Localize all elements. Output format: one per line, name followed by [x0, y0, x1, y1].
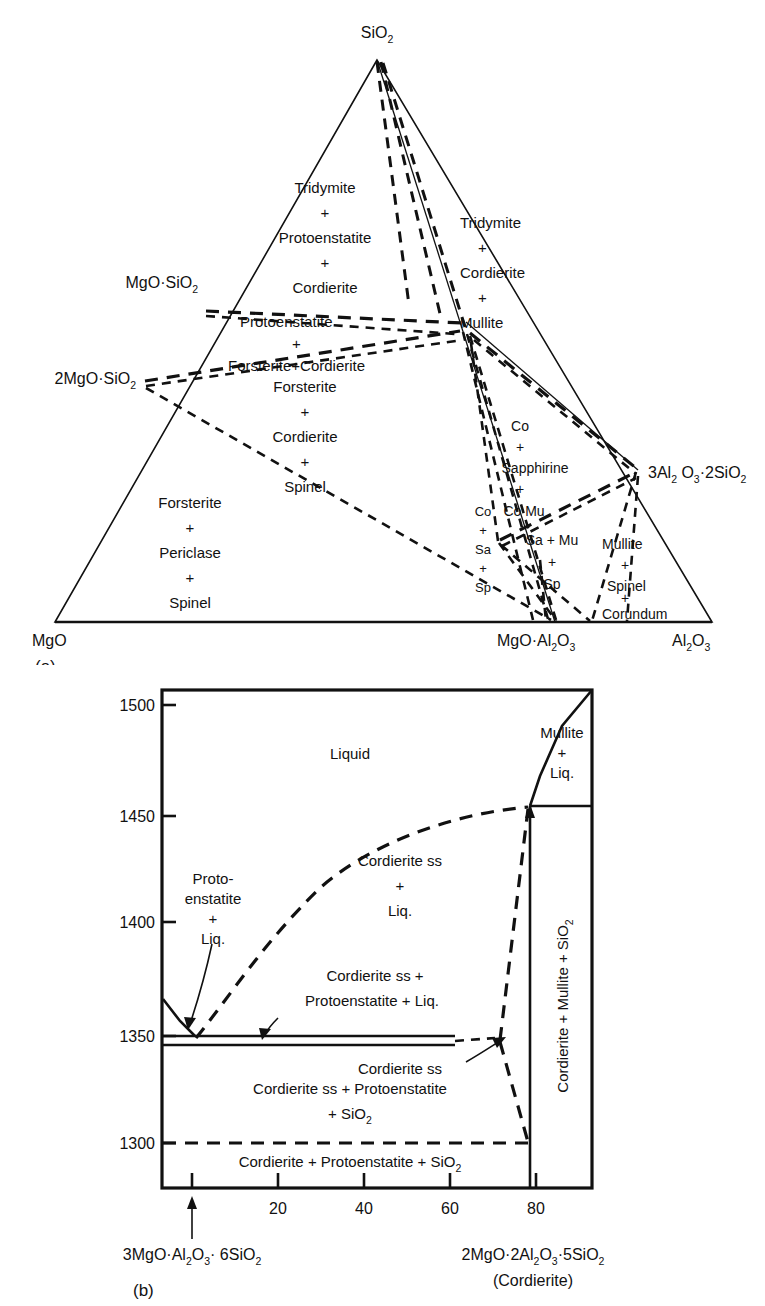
ternary-phase-diagram: SiO2 MgO MgO·Al2O3 Al2O3 MgO·SiO2 2MgO·S… — [0, 0, 765, 665]
x-axis-label-right: 2MgO·2Al2O3·5SiO2 — [462, 1246, 605, 1267]
svg-text:Sp: Sp — [543, 576, 560, 592]
svg-text:+: + — [516, 481, 524, 497]
arrow-head — [187, 1196, 197, 1209]
svg-text:+: + — [186, 519, 195, 536]
svg-text:Liq.: Liq. — [388, 902, 412, 919]
svg-text:Tridymite: Tridymite — [460, 214, 521, 231]
svg-text:Co: Co — [475, 504, 492, 519]
plot-frame — [162, 690, 592, 1188]
svg-text:+: + — [479, 561, 487, 576]
svg-text:+: + — [301, 403, 310, 420]
svg-text:Co: Co — [511, 418, 529, 434]
field-label-proto-enstatite-liq: Proto- enstatite + Liq. — [185, 870, 242, 947]
y-tick-label-1450: 1450 — [119, 808, 155, 825]
svg-text:Co Mu: Co Mu — [503, 503, 544, 519]
svg-text:Liq.: Liq. — [201, 930, 225, 947]
svg-text:Cordierite: Cordierite — [292, 279, 357, 296]
leader-cordierite-ss — [466, 1041, 500, 1062]
ternary-region-co-sa-sp: Co + Sa + Sp — [475, 504, 492, 595]
x-tick-label-60: 60 — [441, 1200, 459, 1217]
ternary-region-forsterite-cordierite-spinel: Forsterite + Cordierite + Spinel — [272, 378, 337, 495]
ternary-region-co-sapphirine-mu: Co + Sapphirine + Co Mu — [502, 418, 569, 519]
svg-text:+: + — [479, 523, 487, 538]
svg-text:Cordierite ss: Cordierite ss — [358, 852, 442, 869]
x-axis-ticks — [192, 1173, 536, 1188]
svg-text:Protoenstatite: Protoenstatite — [279, 229, 372, 246]
peritectic-line-dashed-extension — [455, 1038, 495, 1041]
ternary-region-forsterite-periclase-spinel: Forsterite + Periclase + Spinel — [158, 494, 221, 611]
y-tick-label-1400: 1400 — [119, 914, 155, 931]
svg-text:Protoenstatite + Liq.: Protoenstatite + Liq. — [305, 992, 439, 1009]
field-label-cordierite-ss: Cordierite ss — [358, 1060, 442, 1077]
x-tick-label-40: 40 — [355, 1200, 373, 1217]
x-axis-sublabel-right: (Cordierite) — [493, 1272, 573, 1289]
svg-text:Mullite: Mullite — [602, 536, 643, 552]
svg-text:+: + — [516, 439, 524, 455]
svg-text:+: + — [558, 744, 567, 761]
ternary-region-mullite-spinel-corundum: Mullite + Spinel + Corundum — [602, 536, 667, 622]
y-tick-label-1500: 1500 — [119, 697, 155, 714]
y-axis-ticks — [162, 705, 176, 1143]
svg-text:Forsterite: Forsterite — [273, 378, 336, 395]
svg-text:+: + — [478, 289, 487, 306]
tieline-cordierite-mullite-a — [470, 333, 636, 468]
binary-phase-diagram: 1500 1450 1400 1350 1300 20 40 60 80 3Mg… — [0, 666, 765, 1306]
ternary-region-protoenstatite-forsterite-cordierite: Protoenstatite + Forsterite+Cordierite — [228, 313, 365, 374]
field-label-cordierite-protoenstatite-sio2: Cordierite + Protoenstatite + SiO2 — [239, 1153, 462, 1174]
svg-text:Protoenstatite: Protoenstatite — [240, 313, 333, 330]
svg-text:Forsterite+Cordierite: Forsterite+Cordierite — [228, 357, 365, 374]
svg-text:Corundum: Corundum — [602, 606, 667, 622]
ternary-label-mullite: 3Al2 O3·2SiO2 — [648, 464, 747, 485]
svg-text:Cordierite ss +: Cordierite ss + — [326, 967, 423, 984]
svg-text:Mullite: Mullite — [460, 314, 503, 331]
cordierite-ss-lower-boundary — [500, 1042, 528, 1142]
leader-proto-liq — [190, 944, 212, 1024]
leader-cordierite-ss-head — [492, 1037, 506, 1048]
svg-text:Mullite: Mullite — [540, 724, 583, 741]
svg-text:Spinel: Spinel — [284, 478, 326, 495]
svg-text:+: + — [621, 590, 629, 606]
tieline-sio2-cordierite-b — [381, 62, 441, 318]
ternary-apex-label: SiO2 — [361, 24, 394, 45]
svg-text:Liq.: Liq. — [550, 764, 574, 781]
composition-arrow-left — [187, 1196, 197, 1239]
panel-b-caption: (b) — [133, 1281, 154, 1300]
svg-text:+: + — [186, 569, 195, 586]
svg-text:enstatite: enstatite — [185, 890, 242, 907]
svg-text:+: + — [321, 254, 330, 271]
field-label-cordierite-mullite-sio2: Cordierite + Mullite + SiO2 — [554, 919, 575, 1093]
svg-text:Cordierite ss + Protoenstatite: Cordierite ss + Protoenstatite — [253, 1080, 447, 1097]
field-label-liquid: Liquid — [330, 745, 370, 762]
panel-a-caption: (a) — [35, 657, 56, 665]
field-sio2-line: + SiO2 — [328, 1105, 372, 1126]
svg-text:Sp: Sp — [475, 580, 491, 595]
y-tick-label-1350: 1350 — [119, 1028, 155, 1045]
ternary-label-forsterite: 2MgO·SiO2 — [55, 370, 137, 391]
svg-text:+: + — [321, 204, 330, 221]
leader-cord-proto-liq-head — [259, 1028, 271, 1040]
svg-text:Sa: Sa — [475, 542, 492, 557]
svg-text:+: + — [478, 239, 487, 256]
svg-text:Tridymite: Tridymite — [294, 179, 355, 196]
ternary-region-tridymite-protoenstatite-cordierite: Tridymite + Protoenstatite + Cordierite — [279, 179, 372, 296]
ternary-label-spinel: MgO·Al2O3 — [497, 632, 576, 653]
svg-text:Cordierite: Cordierite — [272, 428, 337, 445]
svg-text:Cordierite: Cordierite — [460, 264, 525, 281]
tieline-sio2-cordierite-a — [377, 62, 409, 305]
tieline-cordierite-spinel-b — [467, 334, 548, 619]
field-label-mullite-liq: Mullite + Liq. — [540, 724, 583, 781]
svg-text:+: + — [292, 335, 301, 352]
field-label-cordierite-ss-protoenstatite-liq: Cordierite ss + Protoenstatite + Liq. — [305, 967, 439, 1009]
field-label-cordierite-ss-liq: Cordierite ss + Liq. — [358, 852, 442, 919]
x-tick-label-80: 80 — [527, 1200, 545, 1217]
svg-text:Spinel: Spinel — [169, 594, 211, 611]
cordierite-ss-upper-boundary — [500, 809, 528, 1040]
ternary-label-enstatite: MgO·SiO2 — [125, 274, 198, 295]
ternary-corner-mgo: MgO — [32, 632, 67, 649]
y-tick-label-1300: 1300 — [119, 1135, 155, 1152]
svg-text:Sapphirine: Sapphirine — [502, 460, 569, 476]
field-label-cordierite-ss-protoenstatite-sio2: Cordierite ss + Protoenstatite + SiO2 — [253, 1080, 447, 1126]
figure-container: SiO2 MgO MgO·Al2O3 Al2O3 MgO·SiO2 2MgO·S… — [0, 0, 765, 1306]
svg-text:+: + — [396, 877, 405, 894]
svg-text:+: + — [548, 554, 556, 570]
